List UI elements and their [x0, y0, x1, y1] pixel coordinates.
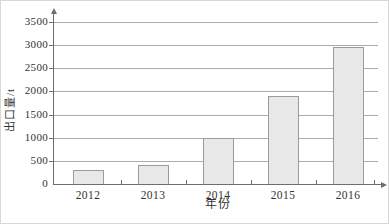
x-tick-label-2015: 2015: [271, 190, 296, 202]
bar-2012: [73, 170, 104, 184]
gridline-1500: [53, 115, 378, 116]
gridline-2000: [53, 91, 378, 92]
bar-2015: [268, 96, 299, 184]
gridline-3000: [53, 45, 378, 46]
x-tick-label-2016: 2016: [336, 190, 361, 202]
gridline-2500: [53, 68, 378, 69]
y-axis-arrow-icon: [51, 8, 57, 14]
y-tick-label-500: 500: [14, 155, 48, 166]
y-tick-label-3000: 3000: [14, 39, 48, 50]
gridline-3500: [53, 22, 378, 23]
y-axis-label: 出口量/t: [5, 88, 16, 132]
y-axis-line: [53, 13, 54, 184]
x-axis-label: 年份: [205, 198, 231, 210]
bar-2014: [203, 138, 234, 184]
x-tick-label-2012: 2012: [76, 190, 101, 202]
y-tick-label-0: 0: [14, 178, 48, 189]
x-axis-line: [53, 184, 382, 185]
bar-2016: [333, 47, 364, 184]
y-tick-label-3500: 3500: [14, 16, 48, 27]
bar-chart-figure: 0500100015002000250030003500 20122013201…: [0, 0, 389, 224]
x-axis-arrow-icon: [381, 182, 387, 188]
y-tick-label-1000: 1000: [14, 132, 48, 143]
x-tick-label-2013: 2013: [141, 190, 166, 202]
y-tick-label-2000: 2000: [14, 86, 48, 97]
y-tick-label-2500: 2500: [14, 63, 48, 74]
y-tick-label-1500: 1500: [14, 109, 48, 120]
bar-2013: [138, 165, 169, 184]
